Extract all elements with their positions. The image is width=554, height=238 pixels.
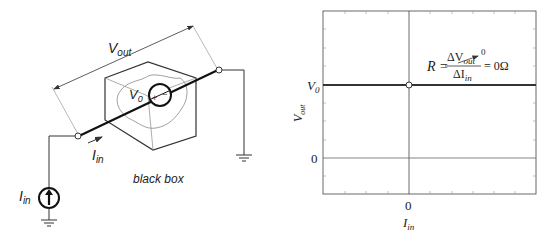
black-box: [105, 62, 196, 150]
figure: Vout + − V0: [0, 0, 554, 238]
plot-frame: [323, 11, 536, 194]
source-label: Iin: [19, 188, 31, 206]
x-tick-zero: 0: [405, 198, 412, 213]
minus-sign: −: [162, 89, 167, 99]
plus-sign: +: [152, 93, 157, 103]
iv-chart: V0 0 0 Iin Vout R = ΔVout 0 ΔIin = 0Ω: [291, 11, 536, 232]
y-tick-zero: 0: [311, 151, 318, 166]
ground-icon: [236, 155, 252, 161]
black-box-label: black box: [133, 172, 185, 186]
terminal-left: [75, 133, 81, 139]
origin-marker: [406, 82, 412, 88]
y-axis-label: Vout: [291, 104, 307, 122]
eq-r: R =: [426, 59, 449, 74]
y-tick-v0: V0: [307, 78, 320, 95]
terminal-right: [216, 67, 222, 73]
iin-arrow-label: Iin: [92, 147, 104, 165]
ground-icon: [41, 220, 57, 226]
x-axis-label: Iin: [402, 215, 415, 232]
circuit-diagram: Vout + − V0: [19, 26, 252, 226]
eq-result: = 0Ω: [484, 59, 509, 73]
vout-label: Vout: [108, 40, 132, 58]
current-source-icon: [39, 188, 59, 208]
eq-arrow-target: 0: [481, 47, 486, 57]
current-arrow-icon: [88, 137, 102, 143]
